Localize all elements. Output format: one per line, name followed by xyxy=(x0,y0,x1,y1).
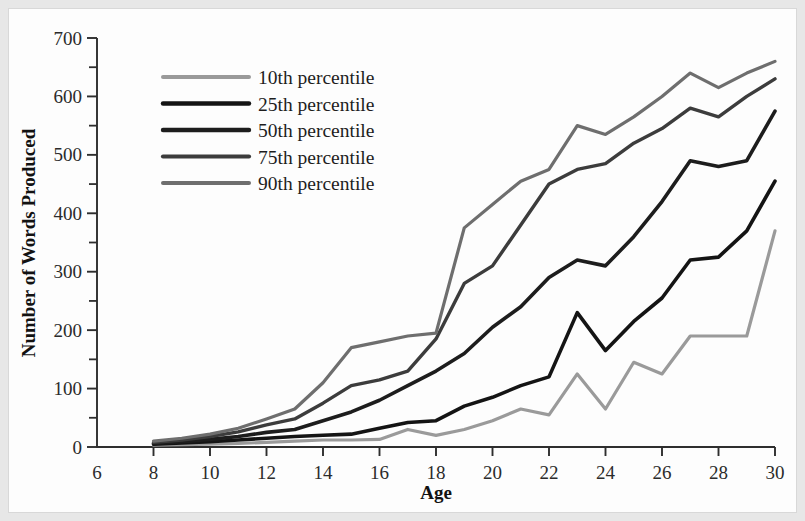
y-tick-label: 0 xyxy=(73,437,83,458)
x-tick-label: 24 xyxy=(596,462,616,483)
y-tick-label: 300 xyxy=(54,261,83,282)
series-line xyxy=(154,111,776,443)
legend-label: 25th percentile xyxy=(258,94,374,115)
legend-label: 75th percentile xyxy=(258,147,374,168)
y-tick-label: 100 xyxy=(54,378,83,399)
x-tick-label: 12 xyxy=(257,462,276,483)
x-tick-label: 10 xyxy=(201,462,220,483)
figure-page: 0100200300400500600700681012141618202224… xyxy=(0,0,805,521)
y-tick-label: 600 xyxy=(54,86,83,107)
y-tick-label: 400 xyxy=(54,203,83,224)
series-line xyxy=(154,79,776,442)
x-tick-label: 18 xyxy=(427,462,446,483)
legend-label: 50th percentile xyxy=(258,120,374,141)
series-line xyxy=(154,61,776,441)
y-axis-title: Number of Words Produced xyxy=(18,128,39,357)
x-tick-label: 30 xyxy=(766,462,785,483)
y-tick-label: 200 xyxy=(54,320,83,341)
y-tick-label: 500 xyxy=(54,144,83,165)
plot-area: 0100200300400500600700681012141618202224… xyxy=(0,0,805,521)
legend-label: 10th percentile xyxy=(258,67,374,88)
x-axis-title: Age xyxy=(420,482,452,503)
legend-group: 10th percentile25th percentile50th perce… xyxy=(163,67,374,194)
series-group xyxy=(154,61,776,445)
x-tick-label: 22 xyxy=(540,462,559,483)
series-line xyxy=(154,181,776,444)
x-tick-label: 26 xyxy=(653,462,672,483)
x-tick-label: 16 xyxy=(370,462,389,483)
axis-group: 0100200300400500600700681012141618202224… xyxy=(54,28,785,484)
series-line xyxy=(154,231,776,445)
y-tick-label: 700 xyxy=(54,28,83,49)
line-chart-svg: 0100200300400500600700681012141618202224… xyxy=(0,0,805,521)
x-tick-label: 20 xyxy=(483,462,502,483)
legend-label: 90th percentile xyxy=(258,173,374,194)
axis-lines xyxy=(97,38,775,447)
x-tick-label: 14 xyxy=(314,462,334,483)
x-tick-label: 6 xyxy=(92,462,102,483)
x-tick-label: 28 xyxy=(709,462,728,483)
x-tick-label: 8 xyxy=(149,462,159,483)
